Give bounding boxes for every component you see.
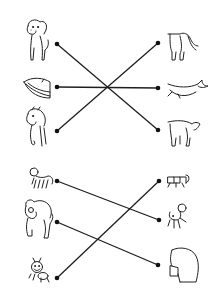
horse-back-icon [168,33,198,60]
bear-back-icon [170,248,198,282]
dog-front-icon [27,20,48,60]
matching-worksheet [0,0,217,303]
connection-line-shrimp [57,181,159,220]
left-dot-ant[interactable] [55,276,60,281]
right-dot-whale[interactable] [156,86,161,91]
right-dot-shrimp[interactable] [157,218,162,223]
left-dot-dog[interactable] [55,42,60,47]
ant-front-icon [29,258,49,282]
left-dot-shrimp[interactable] [55,179,60,184]
dog-back-icon [168,121,200,146]
shrimp-front-icon [30,168,53,188]
connection-lines [57,43,159,278]
bear-front-icon [25,200,53,238]
right-dot-ant[interactable] [157,179,162,184]
whale-tail-icon [168,80,208,98]
right-dot-bear[interactable] [156,263,161,268]
connection-line-ant [57,181,159,278]
left-dot-horse[interactable] [55,129,60,134]
left-dot-bear[interactable] [55,220,60,225]
shrimp-back-icon [168,204,186,228]
left-dot-whale[interactable] [55,85,60,90]
horse-front-icon [27,107,46,146]
right-dot-dog[interactable] [156,128,161,133]
whale-head-icon [24,78,50,98]
connection-line-bear [57,222,158,265]
right-dot-horse[interactable] [156,41,161,46]
ant-back-icon [168,175,189,187]
